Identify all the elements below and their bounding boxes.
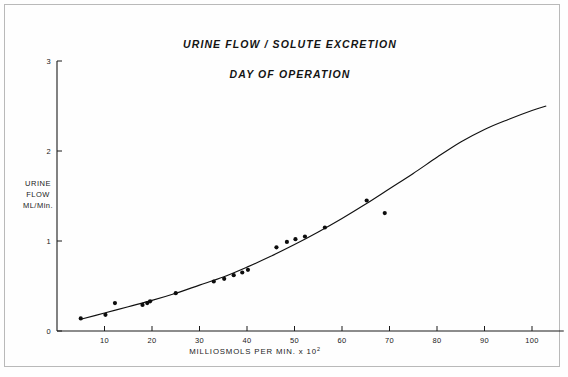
data-point: [323, 225, 327, 229]
y-tick-label: 3: [46, 57, 51, 66]
x-tick-label: 60: [337, 336, 346, 345]
chart-title: URINE FLOW / SOLUTE EXCRETION: [183, 38, 397, 50]
x-tick-label: 100: [525, 336, 539, 345]
x-tick-label: 40: [242, 336, 251, 345]
fitted-curve-path: [81, 106, 547, 319]
y-tick-label: 1: [46, 237, 51, 246]
y-axis-label-line-1: URINE: [25, 179, 51, 188]
x-axis-label-exponent: 2: [317, 346, 321, 352]
x-tick-label: 30: [195, 336, 204, 345]
chart-plot-area: URINE FLOW / SOLUTE EXCRETION DAY OF OPE…: [0, 0, 568, 377]
data-point: [148, 299, 152, 303]
y-axis-label-line-2: FLOW: [26, 190, 50, 199]
data-point: [212, 279, 216, 283]
data-point: [246, 268, 250, 272]
x-tick-label: 10: [100, 336, 109, 345]
data-point: [140, 303, 144, 307]
y-axis-label-group: URINE FLOW ML/Min.: [23, 179, 53, 210]
x-axis-label: MILLIOSMOLS PER MIN. x 102: [189, 346, 321, 357]
chart-fitted-curve: [81, 106, 547, 319]
y-tick-label: 2: [46, 147, 51, 156]
x-axis-label-group: MILLIOSMOLS PER MIN. x 102: [189, 346, 321, 357]
x-tick-label: 70: [385, 336, 394, 345]
data-point: [113, 301, 117, 305]
chart-axes: [57, 61, 564, 331]
x-tick-label: 20: [147, 336, 156, 345]
y-axis-label-line-3: ML/Min.: [23, 201, 53, 210]
chart-figure: URINE FLOW / SOLUTE EXCRETION DAY OF OPE…: [0, 0, 568, 377]
chart-subtitle: DAY OF OPERATION: [230, 68, 351, 80]
chart-ticks: [57, 61, 532, 331]
y-tick-label: 0: [46, 327, 51, 336]
data-point: [383, 211, 387, 215]
chart-tick-labels: 1020304050607080901000123: [46, 57, 538, 345]
data-point: [103, 313, 107, 317]
data-point: [222, 277, 226, 281]
x-tick-label: 50: [290, 336, 299, 345]
x-tick-label: 90: [480, 336, 489, 345]
data-point: [232, 273, 236, 277]
data-point: [79, 316, 83, 320]
x-tick-label: 80: [432, 336, 441, 345]
data-point: [274, 245, 278, 249]
data-point: [174, 291, 178, 295]
chart-title-group: URINE FLOW / SOLUTE EXCRETION DAY OF OPE…: [183, 38, 397, 80]
data-point: [365, 198, 369, 202]
data-point: [303, 234, 307, 238]
data-point: [285, 240, 289, 244]
chart-data-points: [79, 198, 387, 320]
data-point: [240, 270, 244, 274]
x-axis-label-text: MILLIOSMOLS PER MIN. x 10: [189, 347, 317, 356]
data-point: [293, 237, 297, 241]
